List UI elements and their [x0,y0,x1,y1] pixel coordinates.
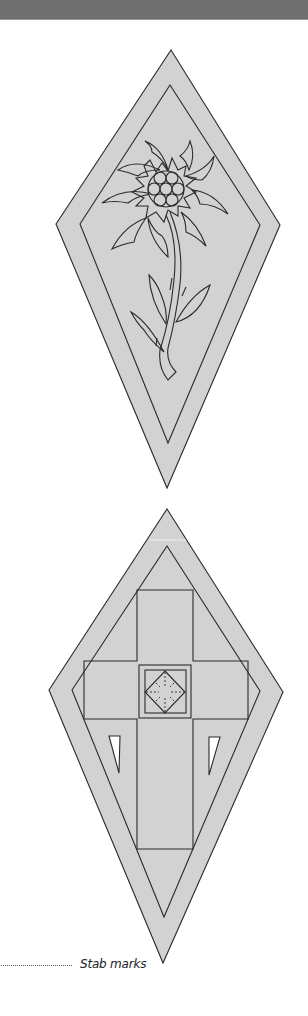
legend-label: Stab marks [80,957,146,971]
stab-marks-dotted-line-icon [1,965,72,966]
edelweiss-diamond [56,50,280,488]
pattern-artwork [0,0,308,1016]
cross-diamond [49,509,283,963]
outer-diamond-border [56,50,280,488]
legend: Stab marks [0,956,200,974]
outer-diamond-border [49,509,283,963]
